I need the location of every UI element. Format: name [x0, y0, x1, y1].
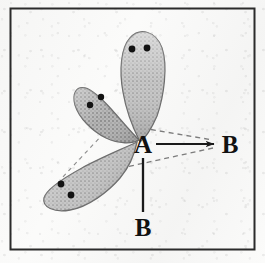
- label-atom-b-right: B: [222, 131, 239, 158]
- orbital-diagram-svg: A B B: [0, 0, 265, 263]
- electron-dot: [129, 46, 136, 53]
- label-atom-b-bottom: B: [135, 214, 152, 241]
- orbital-figure: A B B Hybrid orbital bonding diagram: [0, 0, 265, 263]
- lobe-top: [121, 32, 165, 142]
- electron-dot: [58, 181, 65, 188]
- electron-dot: [87, 102, 93, 108]
- guide-top-lobe-to-right-b: [142, 128, 213, 140]
- label-center-atom-a: A: [134, 131, 152, 158]
- electron-dot: [68, 192, 75, 199]
- electron-dot: [98, 94, 104, 100]
- electron-dot: [144, 45, 151, 52]
- lobe-lower-left: [44, 142, 137, 211]
